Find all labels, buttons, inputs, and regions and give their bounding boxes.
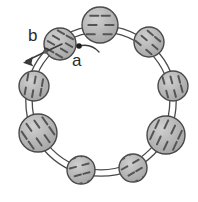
sphere-group — [13, 6, 191, 185]
sphere-lower-left-body — [19, 114, 57, 152]
diagram-canvas: a b — [0, 0, 198, 202]
leader-line-a — [79, 45, 99, 52]
label-b: b — [28, 27, 37, 44]
sphere-upper-right — [130, 23, 167, 61]
hatch-mark — [50, 78, 51, 85]
sphere-top — [82, 6, 118, 43]
arrow-mid-node-b — [43, 49, 47, 53]
hatch-mark — [32, 90, 33, 97]
hatch-mark — [27, 74, 28, 81]
hatch-mark — [42, 79, 43, 86]
arrow-head-b-outer — [23, 57, 34, 67]
hatch-mark — [58, 23, 64, 27]
hatch-mark — [141, 131, 145, 139]
hatch-mark — [40, 89, 41, 96]
hatch-mark — [14, 135, 19, 142]
hatch-mark — [47, 109, 52, 116]
sphere-right — [155, 71, 191, 101]
hatch-mark — [55, 62, 61, 66]
hatch-mark — [34, 76, 35, 83]
sphere-bottom-left-body — [67, 156, 95, 184]
hatch-mark — [187, 131, 191, 139]
label-a: a — [72, 52, 81, 69]
hatch-mark — [189, 85, 191, 92]
sphere-bottom-right — [117, 151, 148, 184]
sphere-lower-left — [13, 109, 64, 156]
sphere-bottom-left — [67, 155, 95, 186]
hatch-mark — [57, 124, 62, 131]
hatch-mark — [25, 87, 26, 94]
anchor-dot-a — [76, 43, 82, 49]
sphere-left — [17, 71, 51, 101]
sphere-right-body — [158, 71, 188, 101]
sphere-left-body — [19, 71, 49, 101]
hatch-mark — [24, 150, 29, 157]
